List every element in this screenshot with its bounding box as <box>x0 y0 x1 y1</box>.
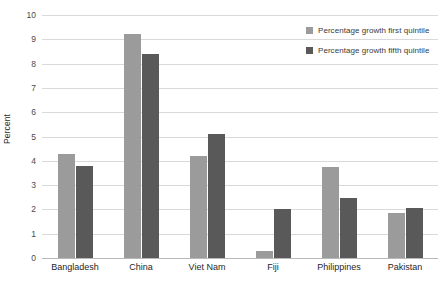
y-tick-label: 9 <box>18 34 36 44</box>
y-tick-label: 6 <box>18 107 36 117</box>
x-tick-label: Viet Nam <box>189 262 226 272</box>
y-axis-title: Percent <box>0 0 14 258</box>
y-tick-label: 10 <box>18 10 36 20</box>
x-tick-label: Pakistan <box>388 262 423 272</box>
bar <box>76 166 93 258</box>
legend-swatch-icon <box>306 47 313 54</box>
bar <box>142 54 159 258</box>
bar-group <box>190 15 225 258</box>
x-tick-label: Fiji <box>267 262 279 272</box>
legend-item[interactable]: Percentage growth first quintile <box>306 20 446 40</box>
x-tick-label: Philippines <box>317 262 361 272</box>
legend-swatch-icon <box>306 27 313 34</box>
bar-group <box>58 15 93 258</box>
y-tick-label: 5 <box>18 132 36 142</box>
legend-label: Percentage growth fifth quintile <box>318 46 429 55</box>
bar-group <box>256 15 291 258</box>
y-tick-label: 1 <box>18 229 36 239</box>
bar <box>58 154 75 258</box>
bar-group <box>124 15 159 258</box>
y-tick-label: 2 <box>18 204 36 214</box>
y-tick-label: 8 <box>18 59 36 69</box>
y-tick-label: 4 <box>18 156 36 166</box>
y-axis-title-label: Percent <box>2 114 12 144</box>
bar <box>322 167 339 258</box>
y-tick-label: 3 <box>18 180 36 190</box>
chart-legend: Percentage growth first quintilePercenta… <box>306 20 446 60</box>
bar <box>274 209 291 258</box>
bar <box>190 156 207 258</box>
bar <box>406 208 423 258</box>
y-tick-label: 0 <box>18 253 36 263</box>
x-tick-label: Bangladesh <box>51 262 99 272</box>
bar <box>340 198 357 258</box>
x-axis-category-labels: BangladeshChinaViet NamFijiPhilippinesPa… <box>42 262 438 282</box>
bar <box>208 134 225 258</box>
x-tick-label: China <box>129 262 153 272</box>
legend-label: Percentage growth first quintile <box>318 26 429 35</box>
y-tick-label: 7 <box>18 83 36 93</box>
bar <box>256 251 273 258</box>
bar-chart: Percent 012345678910 BangladeshChinaViet… <box>0 0 447 288</box>
bar <box>388 213 405 258</box>
legend-item[interactable]: Percentage growth fifth quintile <box>306 40 446 60</box>
bar <box>124 34 141 258</box>
gridline <box>42 258 438 259</box>
